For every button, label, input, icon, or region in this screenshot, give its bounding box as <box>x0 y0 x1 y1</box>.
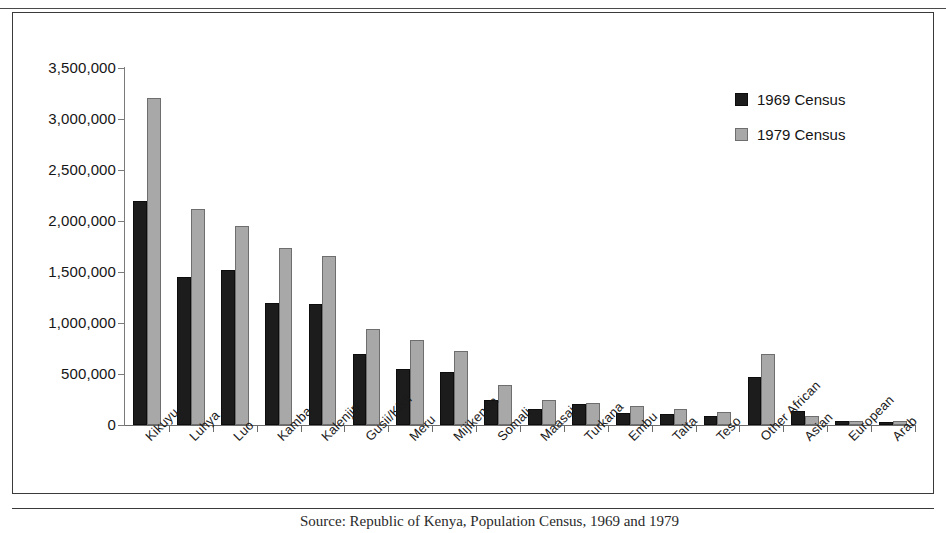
legend-swatch-1969 <box>735 93 748 106</box>
y-axis-tick <box>118 323 125 324</box>
source-caption: Source: Republic of Kenya, Population Ce… <box>300 513 940 530</box>
y-axis-tick <box>118 221 125 222</box>
bar-1979 <box>322 256 336 425</box>
y-axis-tick-label: 1,500,000 <box>16 264 116 279</box>
legend-label-1979: 1979 Census <box>757 127 845 142</box>
bar-1969 <box>704 416 718 425</box>
bar-1979 <box>235 226 249 426</box>
bar-1979 <box>147 98 161 425</box>
bar-1979 <box>279 248 293 425</box>
y-axis-tick-label: 2,000,000 <box>16 213 116 228</box>
bar-group <box>169 68 213 425</box>
top-divider-rule <box>0 8 946 9</box>
bar-group <box>257 68 301 425</box>
bar-1969 <box>660 414 674 425</box>
y-axis-tick <box>118 119 125 120</box>
bar-1979 <box>191 209 205 425</box>
bar-group <box>608 68 652 425</box>
x-axis-tick <box>257 425 258 432</box>
bar-group <box>652 68 696 425</box>
bar-1969 <box>265 303 279 425</box>
caption-divider-rule <box>12 508 934 509</box>
bar-group <box>301 68 345 425</box>
bar-group <box>520 68 564 425</box>
bar-1969 <box>879 422 893 425</box>
bar-1979 <box>454 351 468 425</box>
legend-label-1969: 1969 Census <box>757 92 845 107</box>
bar-group <box>125 68 169 425</box>
bar-1969 <box>177 277 191 425</box>
bar-1969 <box>835 421 849 425</box>
bar-group <box>564 68 608 425</box>
y-axis-tick <box>118 68 125 69</box>
y-axis-labels: 0500,0001,000,0001,500,0002,000,0002,500… <box>13 13 116 533</box>
y-axis-tick-label: 500,000 <box>16 366 116 381</box>
chart-frame: 0500,0001,000,0001,500,0002,000,0002,500… <box>12 12 934 494</box>
y-axis-tick-label: 0 <box>16 417 116 432</box>
bar-1979 <box>761 354 775 425</box>
bar-group <box>696 68 740 425</box>
y-axis-tick <box>118 425 125 426</box>
bar-1969 <box>221 270 235 425</box>
chart-legend: 1969 Census 1979 Census <box>735 91 915 161</box>
y-axis-tick-label: 3,000,000 <box>16 111 116 126</box>
bar-group <box>476 68 520 425</box>
y-axis-tick-label: 2,500,000 <box>16 162 116 177</box>
legend-item-1969: 1969 Census <box>735 91 915 108</box>
bar-1979 <box>410 340 424 425</box>
y-axis-tick <box>118 374 125 375</box>
bar-group <box>432 68 476 425</box>
y-axis-tick <box>118 170 125 171</box>
y-axis-tick <box>118 272 125 273</box>
bar-group <box>344 68 388 425</box>
bar-1969 <box>309 304 323 425</box>
bar-1969 <box>133 201 147 426</box>
legend-item-1979: 1979 Census <box>735 126 915 143</box>
y-axis-tick-label: 3,500,000 <box>16 60 116 75</box>
bar-1979 <box>366 329 380 425</box>
bar-1969 <box>440 372 454 425</box>
bar-1969 <box>748 377 762 425</box>
legend-swatch-1979 <box>735 128 748 141</box>
bar-group <box>388 68 432 425</box>
y-axis-tick-label: 1,000,000 <box>16 315 116 330</box>
bar-group <box>213 68 257 425</box>
